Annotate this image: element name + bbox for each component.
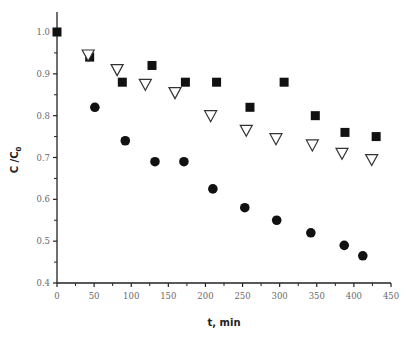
data-point-triangle bbox=[139, 79, 151, 90]
y-tick-label: 1.0 bbox=[36, 27, 50, 37]
y-tick-label: 0.5 bbox=[36, 236, 50, 246]
data-point-square bbox=[340, 128, 349, 137]
data-point-triangle bbox=[111, 65, 123, 76]
y-axis-title-sub: 0 bbox=[15, 147, 23, 152]
data-point-circle bbox=[272, 215, 282, 225]
data-series bbox=[53, 28, 381, 261]
data-point-triangle bbox=[270, 134, 282, 145]
data-point-square bbox=[53, 28, 62, 37]
data-point-circle bbox=[339, 241, 349, 251]
y-tick-label: 0.6 bbox=[36, 194, 50, 204]
data-point-square bbox=[245, 103, 254, 112]
y-tick-label: 0.7 bbox=[36, 153, 50, 163]
scatter-chart: 0501001502002503003504004500.40.50.60.70… bbox=[0, 0, 406, 338]
data-point-triangle bbox=[169, 88, 181, 99]
data-point-square bbox=[212, 78, 221, 87]
data-point-square bbox=[372, 132, 381, 141]
data-point-square bbox=[280, 78, 289, 87]
y-axis-title-main: C /C bbox=[9, 152, 20, 174]
data-point-square bbox=[148, 61, 157, 70]
y-tick-label: 0.9 bbox=[36, 69, 50, 79]
data-point-triangle bbox=[366, 155, 378, 166]
data-point-triangle bbox=[205, 111, 217, 122]
data-point-square bbox=[118, 78, 127, 87]
y-tick-label: 0.4 bbox=[36, 278, 50, 288]
data-point-triangle bbox=[336, 148, 348, 159]
x-tick-label: 200 bbox=[197, 291, 213, 301]
data-point-triangle bbox=[240, 125, 252, 136]
x-tick-label: 100 bbox=[123, 291, 139, 301]
data-point-square bbox=[311, 111, 320, 120]
x-tick-label: 0 bbox=[54, 291, 59, 301]
data-point-circle bbox=[358, 251, 368, 261]
x-axis-title: t, min bbox=[207, 317, 240, 328]
series-circle-filled bbox=[90, 103, 368, 261]
data-point-circle bbox=[120, 136, 130, 146]
data-point-circle bbox=[240, 203, 250, 213]
x-tick-label: 50 bbox=[89, 291, 100, 301]
x-tick-label: 300 bbox=[272, 291, 288, 301]
y-axis-title: C /C0 bbox=[9, 147, 23, 174]
series-triangle-down-open bbox=[82, 50, 378, 166]
x-tick-label: 450 bbox=[383, 291, 399, 301]
x-tick-label: 350 bbox=[309, 291, 325, 301]
data-point-circle bbox=[150, 157, 160, 167]
data-point-circle bbox=[90, 103, 100, 113]
data-point-square bbox=[181, 78, 190, 87]
data-point-circle bbox=[179, 157, 189, 167]
x-tick-label: 150 bbox=[160, 291, 176, 301]
data-point-circle bbox=[306, 228, 316, 238]
data-point-circle bbox=[208, 184, 218, 194]
series-square-filled bbox=[53, 28, 381, 142]
y-tick-label: 0.8 bbox=[36, 111, 50, 121]
x-tick-label: 250 bbox=[234, 291, 250, 301]
data-point-triangle bbox=[306, 140, 318, 151]
x-tick-label: 400 bbox=[346, 291, 362, 301]
